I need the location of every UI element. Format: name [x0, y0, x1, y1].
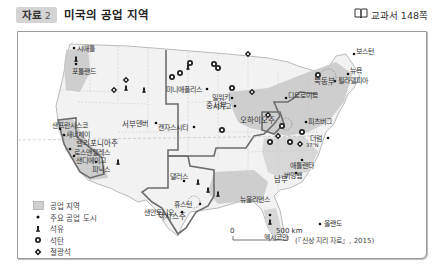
- city-detroit: 디트로이트: [288, 91, 319, 100]
- city-atlanta: 애틀랜타: [290, 161, 315, 170]
- city-kansas-city: 캔자스시티: [158, 123, 188, 132]
- city-dot-icon: [32, 214, 44, 220]
- city-minneapolis: 미니애폴리스: [166, 85, 203, 94]
- city-milwaukee: 밀워키: [212, 93, 230, 102]
- city-portland: 포틀랜드: [72, 67, 97, 76]
- legend-label: 주요 공업 도시: [50, 212, 97, 223]
- legend-item: 공업 지역: [32, 200, 97, 212]
- textbook-reference[interactable]: 교과서 148쪽: [354, 8, 428, 23]
- region-west: 서부: [122, 120, 136, 129]
- city-durham: 더럼: [310, 134, 322, 143]
- high-tech-zone-icon: [32, 258, 44, 259]
- tag-number: 2: [45, 11, 51, 21]
- source-citation: (『신상 지리 자료』, 2015): [295, 235, 374, 245]
- map-frame: 37°N 서부 중서부 북동부 남부 캘리포니아주 텍사스주 오하이오주 시애틀: [17, 31, 427, 259]
- city-new-orleans: 뉴올리언스: [240, 195, 271, 204]
- textbook-ref-text: 교과서 148쪽: [371, 9, 428, 23]
- tag-label: 자료: [22, 9, 42, 21]
- legend-label: 석유: [50, 223, 64, 234]
- city-phoenix: 피닉스: [92, 165, 111, 174]
- legend-item: 주요 공업 도시: [32, 212, 97, 224]
- legend-label: 철광석: [50, 246, 71, 257]
- city-philadelphia: 필라델피아: [338, 76, 369, 85]
- city-san-antonio: 샌안토니오: [144, 208, 175, 217]
- city-orlando: 올랜도: [324, 219, 343, 228]
- industrial-area-swatch-icon: [32, 201, 44, 210]
- city-houston: 휴스턴: [174, 200, 192, 209]
- city-new-york: 뉴욕: [350, 67, 363, 75]
- city-san-diego: 샌디에이고: [76, 156, 107, 165]
- state-california: 캘리포니아주: [76, 138, 118, 148]
- legend-item: 첨단 산업 지역: [32, 258, 97, 260]
- book-icon: [354, 8, 368, 23]
- city-denver: 덴버: [136, 119, 148, 128]
- legend-label: 첨단 산업 지역: [50, 258, 97, 259]
- scale-distance: 500 km: [276, 227, 302, 235]
- legend-label: 석탄: [50, 235, 64, 246]
- page-title: 미국의 공업 지역: [64, 7, 149, 23]
- city-boston: 보스턴: [356, 47, 374, 56]
- city-birmingham: 버밍햄: [284, 171, 302, 180]
- city-pittsburgh: 피츠버그: [308, 117, 333, 126]
- scale-zero: 0: [230, 227, 234, 235]
- region-northeast: 북동부: [314, 77, 335, 86]
- legend-label: 공업 지역: [50, 200, 80, 211]
- city-chicago: 시카고: [213, 102, 232, 111]
- iron-ore-icon: [32, 248, 44, 256]
- legend-item: 석유: [32, 223, 97, 235]
- city-dallas: 댈러스: [170, 172, 189, 181]
- legend-item: 철광석: [32, 246, 97, 258]
- city-san-francisco: 샌프란시스코: [52, 121, 89, 130]
- legend-item: 석탄: [32, 235, 97, 247]
- oil-icon: [32, 225, 44, 233]
- header: 자료2 미국의 공업 지역 교과서 148쪽: [0, 0, 442, 28]
- state-ohio: 오하이오주: [240, 115, 275, 125]
- material-tag: 자료2: [16, 7, 57, 23]
- coal-icon: [32, 236, 44, 244]
- city-san-jose: 새너제이: [66, 130, 90, 139]
- city-los-angeles: 로스앤젤레스: [74, 148, 111, 157]
- city-seattle: 시애틀: [77, 44, 96, 53]
- map-legend: 공업 지역 주요 공업 도시 석유 석탄 철광석 첨단 산업 지역: [32, 200, 97, 259]
